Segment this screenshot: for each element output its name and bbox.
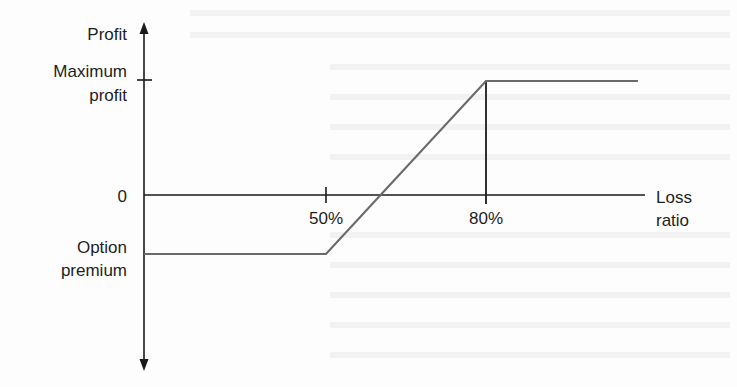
y-axis-up-arrow-icon (140, 22, 149, 34)
x-axis-label-line1: Loss (656, 188, 692, 207)
zero-label: 0 (118, 187, 127, 206)
option-premium-label-line1: Option (77, 238, 127, 257)
x-tick-50-label: 50% (309, 209, 343, 228)
payoff-chart: Profit Maximum profit 0 Option premium 5… (0, 0, 737, 387)
max-profit-label-line2: profit (89, 86, 127, 105)
y-axis-label: Profit (87, 25, 127, 44)
x-tick-80-label: 80% (469, 209, 503, 228)
payoff-line (144, 81, 638, 254)
option-premium-label-line2: premium (61, 261, 127, 280)
x-axis-label-line2: ratio (656, 211, 689, 230)
max-profit-label-line1: Maximum (53, 62, 127, 81)
y-axis-down-arrow-icon (140, 359, 149, 371)
scan-bleed-through (190, 10, 730, 358)
